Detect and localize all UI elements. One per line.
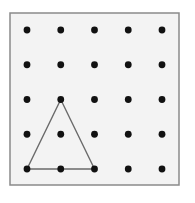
peg-dot: [91, 27, 98, 34]
peg-dot: [159, 27, 166, 34]
peg-dot: [159, 166, 166, 173]
geoboard-diagram: [0, 0, 195, 203]
peg-dot: [91, 131, 98, 138]
peg-dot: [159, 96, 166, 103]
peg-dot: [159, 61, 166, 68]
peg-dot: [24, 96, 31, 103]
peg-dot: [125, 27, 132, 34]
peg-dot: [91, 96, 98, 103]
peg-dot: [57, 96, 64, 103]
peg-dot: [57, 166, 64, 173]
peg-dot: [125, 61, 132, 68]
peg-dot: [159, 131, 166, 138]
peg-dot: [24, 131, 31, 138]
peg-dot: [91, 166, 98, 173]
peg-dot: [57, 61, 64, 68]
peg-dot: [125, 166, 132, 173]
peg-dot: [24, 166, 31, 173]
peg-dot: [24, 61, 31, 68]
peg-dot: [91, 61, 98, 68]
peg-dot: [57, 131, 64, 138]
peg-dot: [125, 131, 132, 138]
peg-dot: [125, 96, 132, 103]
peg-dot: [57, 27, 64, 34]
peg-dot: [24, 27, 31, 34]
